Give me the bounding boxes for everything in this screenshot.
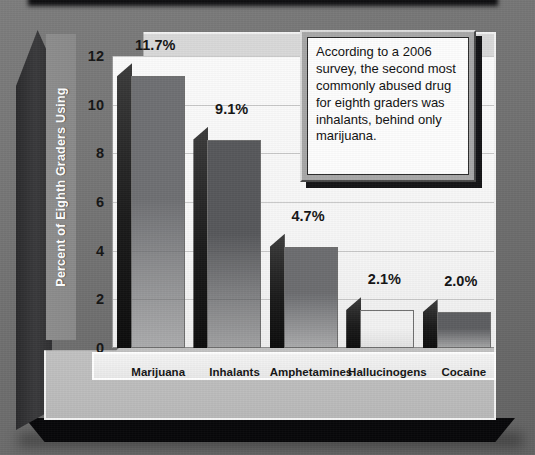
bar-front-face — [437, 312, 491, 348]
base-slab-3d — [25, 418, 515, 442]
x-axis-strip: MarijuanaInhalantsAmphetaminesHallucinog… — [92, 352, 496, 380]
y-tick-label: 8 — [74, 145, 104, 161]
y-tick-label: 6 — [74, 194, 104, 210]
bar-value-label: 9.1% — [187, 101, 277, 117]
y-tick-label: 2 — [74, 291, 104, 307]
bar — [270, 234, 338, 348]
bar — [193, 127, 261, 348]
bar-value-label: 4.7% — [263, 208, 353, 224]
chart-screenshot: Percent of Eighth Graders Using 02468101… — [0, 0, 535, 455]
callout-box: According to a 2006 survey, the second m… — [300, 30, 476, 182]
bar — [346, 297, 414, 348]
bar-side-face — [346, 297, 361, 348]
bar-side-face — [193, 127, 208, 348]
x-tick-label: Marijuana — [131, 366, 185, 378]
bar-value-label: 2.0% — [416, 273, 506, 289]
y-tick-label: 4 — [74, 243, 104, 259]
bar-front-face — [284, 247, 338, 348]
bar-front-face — [207, 140, 261, 348]
y-tick-label: 12 — [74, 48, 104, 64]
y-axis-title-text: Percent of Eighth Graders Using — [54, 87, 68, 286]
x-tick-label: Cocaine — [441, 366, 486, 378]
bar-value-label: 11.7% — [110, 37, 200, 53]
y-axis-title: Percent of Eighth Graders Using — [46, 34, 76, 340]
x-tick-label: Hallucinogens — [348, 366, 427, 378]
bar-side-face — [423, 299, 438, 348]
top-dark-band — [28, 0, 498, 6]
callout-text: According to a 2006 survey, the second m… — [307, 37, 469, 175]
bar-side-face — [117, 63, 132, 348]
bar-front-face — [360, 310, 414, 348]
y-tick-label: 10 — [74, 97, 104, 113]
x-tick-label: Amphetamines — [270, 366, 352, 378]
bar-front-face — [131, 76, 185, 348]
x-tick-label: Inhalants — [209, 366, 259, 378]
bar-side-face — [270, 234, 285, 348]
bar — [117, 63, 185, 348]
bar — [423, 299, 491, 348]
